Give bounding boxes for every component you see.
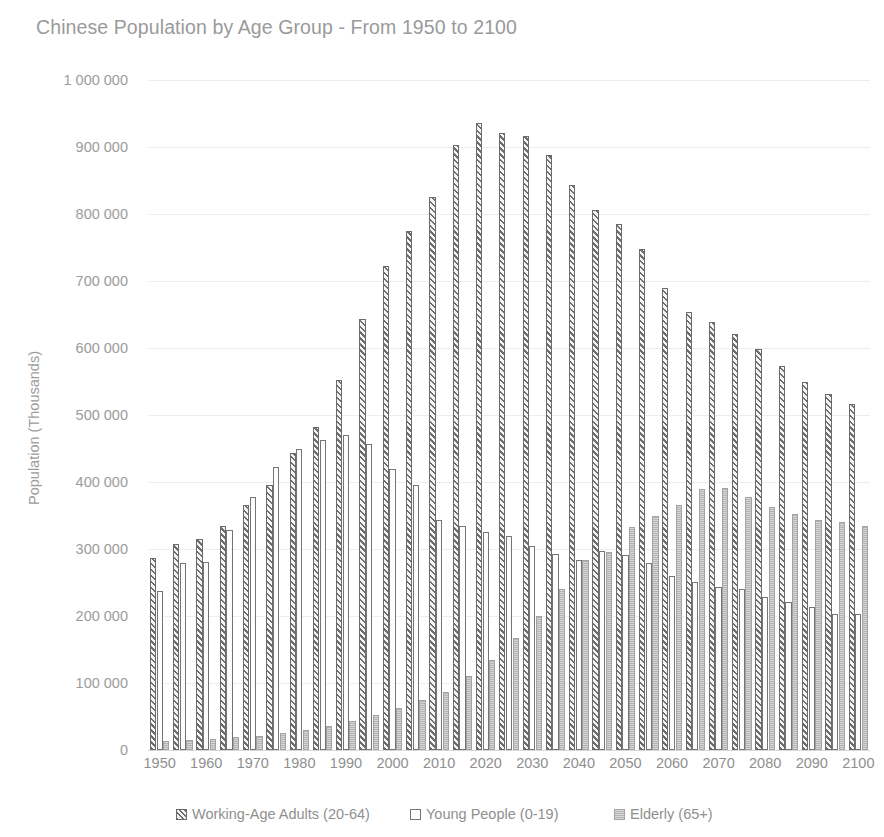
bar-elderly bbox=[256, 736, 262, 750]
bar-working-age bbox=[173, 544, 179, 750]
bar-group bbox=[243, 80, 263, 750]
plot-area: 1 000 000900 000800 000700 000600 000500… bbox=[148, 80, 870, 750]
bar-groups bbox=[148, 80, 870, 750]
bar-working-age bbox=[429, 197, 435, 750]
bar-group bbox=[406, 80, 426, 750]
bar-elderly bbox=[419, 700, 425, 750]
bar-group bbox=[802, 80, 822, 750]
bar-working-age bbox=[592, 210, 598, 750]
bar-young-people bbox=[389, 469, 395, 750]
bar-young-people bbox=[250, 497, 256, 750]
bar-young-people bbox=[855, 614, 861, 750]
bar-elderly bbox=[280, 733, 286, 750]
bar-young-people bbox=[483, 532, 489, 750]
y-tick-label: 800 000 bbox=[8, 206, 128, 222]
bar-group bbox=[313, 80, 333, 750]
bar-group bbox=[825, 80, 845, 750]
bar-elderly bbox=[582, 560, 588, 750]
bar-group bbox=[639, 80, 659, 750]
bar-group bbox=[523, 80, 543, 750]
bar-group bbox=[662, 80, 682, 750]
bar-elderly bbox=[396, 708, 402, 750]
bar-young-people bbox=[832, 614, 838, 750]
bar-young-people bbox=[506, 536, 512, 750]
bar-group bbox=[173, 80, 193, 750]
bar-young-people bbox=[669, 576, 675, 750]
bar-young-people bbox=[785, 602, 791, 750]
legend-swatch-young-people bbox=[410, 809, 421, 820]
bar-group bbox=[616, 80, 636, 750]
bar-group bbox=[359, 80, 379, 750]
bar-group bbox=[709, 80, 729, 750]
y-tick-label: 400 000 bbox=[8, 474, 128, 490]
y-tick-label: 500 000 bbox=[8, 407, 128, 423]
bar-group bbox=[220, 80, 240, 750]
x-tick-label: 2040 bbox=[563, 755, 595, 771]
legend-label: Young People (0-19) bbox=[426, 806, 558, 822]
bar-group bbox=[779, 80, 799, 750]
bar-group bbox=[732, 80, 752, 750]
bar-working-age bbox=[476, 123, 482, 750]
bar-elderly bbox=[606, 552, 612, 750]
bar-elderly bbox=[186, 740, 192, 750]
bar-young-people bbox=[646, 563, 652, 750]
bar-young-people bbox=[226, 530, 232, 750]
x-tick-label: 2020 bbox=[470, 755, 502, 771]
bar-group bbox=[569, 80, 589, 750]
x-tick-label: 2080 bbox=[749, 755, 781, 771]
bar-elderly bbox=[722, 488, 728, 750]
bar-young-people bbox=[529, 546, 535, 750]
legend-item[interactable]: Elderly (65+) bbox=[614, 806, 713, 822]
bar-elderly bbox=[536, 616, 542, 750]
bar-working-age bbox=[266, 485, 272, 750]
bar-working-age bbox=[220, 526, 226, 750]
bar-working-age bbox=[243, 505, 249, 750]
y-tick-label: 900 000 bbox=[8, 139, 128, 155]
bar-elderly bbox=[862, 526, 868, 750]
legend-item[interactable]: Working-Age Adults (20-64) bbox=[176, 806, 370, 822]
bar-working-age bbox=[709, 322, 715, 750]
bar-elderly bbox=[792, 514, 798, 750]
x-tick-label: 2070 bbox=[702, 755, 734, 771]
legend-item[interactable]: Young People (0-19) bbox=[410, 806, 558, 822]
x-tick-label: 2060 bbox=[656, 755, 688, 771]
bar-young-people bbox=[343, 435, 349, 750]
bar-working-age bbox=[639, 249, 645, 750]
bar-working-age bbox=[849, 404, 855, 750]
population-bar-chart: Chinese Population by Age Group - From 1… bbox=[0, 0, 884, 837]
bar-young-people bbox=[459, 526, 465, 750]
bar-elderly bbox=[489, 660, 495, 750]
bar-elderly bbox=[699, 489, 705, 750]
bar-elderly bbox=[466, 676, 472, 750]
legend-swatch-working-age bbox=[176, 809, 187, 820]
bar-young-people bbox=[180, 563, 186, 750]
chart-title: Chinese Population by Age Group - From 1… bbox=[36, 16, 517, 39]
bar-working-age bbox=[453, 145, 459, 750]
bar-elderly bbox=[629, 527, 635, 750]
bar-young-people bbox=[622, 555, 628, 750]
bar-elderly bbox=[652, 516, 658, 751]
x-tick-label: 1960 bbox=[190, 755, 222, 771]
bar-young-people bbox=[599, 551, 605, 750]
bar-group bbox=[592, 80, 612, 750]
gridline bbox=[148, 750, 870, 751]
bar-group bbox=[755, 80, 775, 750]
bar-group bbox=[476, 80, 496, 750]
bar-working-age bbox=[825, 394, 831, 750]
x-tick-label: 2010 bbox=[423, 755, 455, 771]
bar-elderly bbox=[326, 726, 332, 750]
y-tick-label: 300 000 bbox=[8, 541, 128, 557]
x-tick-label: 2050 bbox=[609, 755, 641, 771]
bar-elderly bbox=[210, 739, 216, 750]
bar-young-people bbox=[715, 587, 721, 750]
bar-working-age bbox=[150, 558, 156, 750]
bar-group bbox=[546, 80, 566, 750]
bar-young-people bbox=[203, 562, 209, 750]
bar-young-people bbox=[552, 554, 558, 750]
legend-label: Working-Age Adults (20-64) bbox=[192, 806, 370, 822]
bar-working-age bbox=[336, 380, 342, 751]
legend-label: Elderly (65+) bbox=[630, 806, 713, 822]
bar-young-people bbox=[692, 582, 698, 750]
bar-working-age bbox=[569, 185, 575, 750]
bar-working-age bbox=[546, 155, 552, 750]
